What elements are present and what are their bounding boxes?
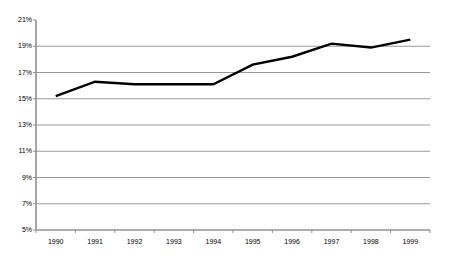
x-axis-tick-label: 1992 xyxy=(115,238,155,245)
x-axis-tick-label: 1997 xyxy=(312,238,352,245)
line-chart: 21%19%17%15%13%11%9%7%5% 199019911992199… xyxy=(0,0,453,261)
x-axis-tick-label: 1991 xyxy=(75,238,115,245)
x-axis-tick-label: 1993 xyxy=(154,238,194,245)
x-axis-tick-label: 1994 xyxy=(193,238,233,245)
x-axis-tick-labels: 1990199119921993199419951996199719981999 xyxy=(0,0,453,261)
x-axis-tick-label: 1996 xyxy=(272,238,312,245)
x-axis-tick-label: 1999 xyxy=(390,238,430,245)
x-axis-tick-label: 1990 xyxy=(36,238,76,245)
x-axis-tick-label: 1995 xyxy=(233,238,273,245)
x-axis-tick-label: 1998 xyxy=(351,238,391,245)
